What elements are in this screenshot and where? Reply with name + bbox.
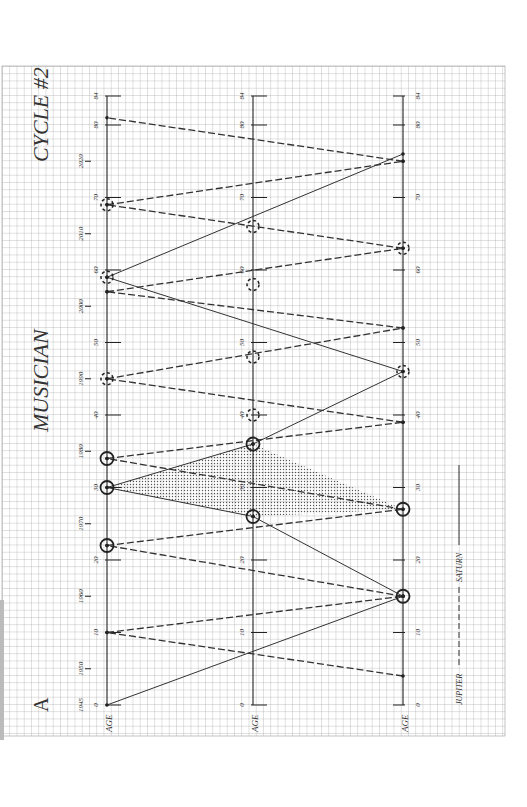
middle-tick-label: 80 bbox=[238, 121, 246, 129]
left-tick-label: 0 bbox=[92, 703, 100, 707]
jupiter-point bbox=[105, 631, 109, 635]
right-tick-label: 10 bbox=[414, 629, 422, 637]
middle-tick-label: 10 bbox=[238, 629, 246, 637]
left-tick-label: 70 bbox=[92, 194, 100, 202]
right-tick-label: 60 bbox=[414, 266, 422, 274]
year-tick-label: 2010 bbox=[77, 226, 85, 241]
right-tick-label: 40 bbox=[414, 411, 422, 419]
year-tick-label: 1990 bbox=[77, 371, 85, 386]
saturn-point bbox=[105, 275, 109, 279]
jupiter-point bbox=[401, 674, 405, 678]
left-tick-label: 40 bbox=[92, 411, 100, 419]
saturn-point bbox=[251, 515, 255, 519]
jupiter-point bbox=[401, 594, 405, 598]
jupiter-point bbox=[105, 290, 109, 294]
jupiter-point bbox=[401, 159, 405, 163]
middle-axis-label: AGE bbox=[250, 714, 260, 733]
saturn-point bbox=[401, 370, 405, 374]
legend-saturn-label: SATURN bbox=[455, 552, 464, 582]
jupiter-point bbox=[105, 544, 109, 548]
jupiter-point bbox=[401, 326, 405, 330]
year-tick-label: 2000 bbox=[77, 299, 85, 314]
year-tick-label: 2020 bbox=[77, 154, 85, 169]
chart: 0102030405060708084194519501960197019801… bbox=[0, 0, 527, 807]
right-axis-label: AGE bbox=[400, 714, 410, 733]
saturn-point bbox=[105, 486, 109, 490]
year-tick-label: 1945 bbox=[77, 698, 85, 713]
left-tick-label: 60 bbox=[92, 266, 100, 274]
right-tick-label: 20 bbox=[414, 556, 422, 564]
jupiter-point bbox=[105, 116, 109, 120]
jupiter-point bbox=[401, 246, 405, 250]
right-tick-label: 70 bbox=[414, 194, 422, 202]
jupiter-point bbox=[401, 420, 405, 424]
panel-letter: A bbox=[30, 697, 52, 712]
middle-tick-label: 70 bbox=[238, 194, 246, 202]
left-tick-label: 20 bbox=[92, 556, 100, 564]
right-tick-label: 30 bbox=[414, 484, 422, 493]
left-axis-label: AGE bbox=[104, 714, 114, 733]
middle-tick-label: 84 bbox=[238, 92, 246, 100]
middle-tick-label: 0 bbox=[238, 703, 246, 707]
right-tick-label: 84 bbox=[414, 92, 422, 100]
chart-subtitle: CYCLE #2 bbox=[28, 67, 53, 162]
year-tick-label: 1960 bbox=[77, 589, 85, 604]
saturn-point bbox=[105, 703, 109, 707]
right-tick-label: 50 bbox=[414, 339, 422, 347]
year-tick-label: 1950 bbox=[77, 661, 85, 676]
left-tick-label: 10 bbox=[92, 629, 100, 637]
jupiter-point bbox=[401, 507, 405, 511]
legend-jupiter-label: JUPITER bbox=[455, 674, 464, 705]
year-tick-label: 1970 bbox=[77, 516, 85, 531]
middle-tick-label: 50 bbox=[238, 339, 246, 347]
left-tick-label: 84 bbox=[92, 92, 100, 100]
jupiter-point bbox=[105, 457, 109, 461]
left-edge-shadow bbox=[0, 600, 4, 740]
chart-title: MUSICIAN bbox=[28, 328, 53, 433]
left-tick-label: 30 bbox=[92, 484, 100, 493]
middle-tick-label: 40 bbox=[238, 411, 246, 419]
saturn-point bbox=[401, 152, 405, 156]
jupiter-point bbox=[105, 377, 109, 381]
left-tick-label: 50 bbox=[92, 339, 100, 347]
left-tick-label: 80 bbox=[92, 121, 100, 129]
middle-tick-label: 30 bbox=[238, 484, 246, 493]
saturn-point bbox=[251, 442, 255, 446]
right-tick-label: 0 bbox=[414, 703, 422, 707]
right-tick-label: 80 bbox=[414, 121, 422, 129]
middle-tick-label: 20 bbox=[238, 556, 246, 564]
year-tick-label: 1980 bbox=[77, 444, 85, 459]
jupiter-point bbox=[105, 203, 109, 207]
